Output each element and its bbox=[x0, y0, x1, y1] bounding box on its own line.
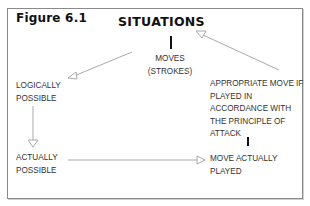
arrow-line-appropriate-to-situations bbox=[203, 35, 279, 70]
diagram-connectors bbox=[0, 0, 310, 206]
arrowhead-situations-icon bbox=[196, 31, 206, 38]
arrowhead-logically-possible-icon bbox=[68, 72, 77, 79]
arrowhead-move-played-icon bbox=[197, 156, 205, 164]
arrowhead-actually-possible-icon bbox=[28, 140, 38, 147]
arrow-line-moves-to-logically-possible bbox=[74, 52, 132, 76]
